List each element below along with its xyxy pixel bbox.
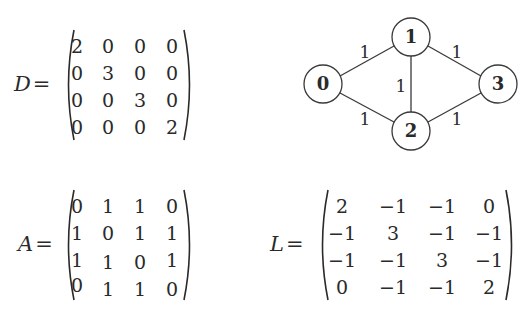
edge-weight-0-2: 1 — [360, 109, 371, 129]
edge-weight-0-1: 1 — [360, 42, 371, 62]
node-label-1: 1 — [405, 26, 418, 47]
graph: 1 1 1 1 1 0 1 2 3 — [0, 0, 531, 312]
node-label-2: 2 — [405, 120, 418, 141]
edge-weight-1-2: 1 — [396, 76, 407, 96]
edge-weight-1-3: 1 — [452, 42, 463, 62]
edge-weight-2-3: 1 — [452, 109, 463, 129]
node-label-3: 3 — [492, 73, 505, 94]
node-label-0: 0 — [317, 73, 330, 94]
